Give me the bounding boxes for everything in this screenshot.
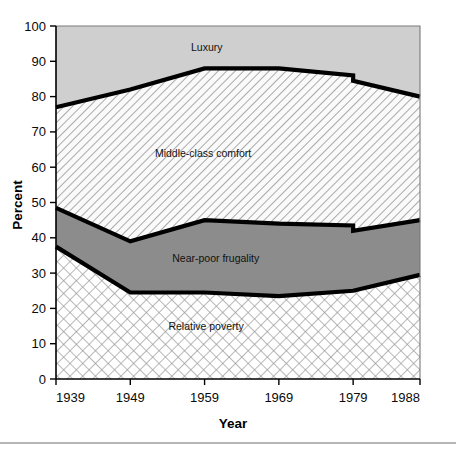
band-label-near-poor-frugality: Near-poor frugality bbox=[172, 252, 260, 264]
y-tick-label-40: 40 bbox=[32, 230, 46, 245]
x-tick-label-1949: 1949 bbox=[116, 390, 145, 405]
chart-container: 0102030405060708090100 19391949195919691… bbox=[0, 0, 456, 457]
x-tick-label-1939: 1939 bbox=[56, 390, 85, 405]
x-tick-label-1988: 1988 bbox=[391, 390, 420, 405]
x-axis-tick-labels: 193919491959196919791988 bbox=[56, 390, 420, 405]
y-tick-label-0: 0 bbox=[39, 372, 46, 387]
band-label-luxury: Luxury bbox=[191, 41, 223, 53]
x-tick-label-1959: 1959 bbox=[190, 390, 219, 405]
y-axis-ticks bbox=[50, 26, 56, 379]
y-tick-label-20: 20 bbox=[32, 301, 46, 316]
y-axis-tick-labels: 0102030405060708090100 bbox=[24, 19, 46, 387]
y-tick-label-90: 90 bbox=[32, 54, 46, 69]
band-label-middle-class-comfort: Middle-class comfort bbox=[155, 147, 251, 159]
y-tick-label-50: 50 bbox=[32, 195, 46, 210]
y-tick-label-10: 10 bbox=[32, 336, 46, 351]
x-tick-label-1969: 1969 bbox=[264, 390, 293, 405]
x-axis-ticks bbox=[56, 379, 420, 385]
y-tick-label-100: 100 bbox=[24, 19, 46, 34]
y-tick-label-30: 30 bbox=[32, 266, 46, 281]
stacked-area-chart: 0102030405060708090100 19391949195919691… bbox=[0, 0, 456, 457]
band-label-relative-poverty: Relative poverty bbox=[168, 320, 244, 332]
y-tick-label-60: 60 bbox=[32, 160, 46, 175]
x-axis-title: Year bbox=[219, 416, 248, 431]
y-axis-title: Percent bbox=[10, 180, 25, 230]
x-tick-label-1979: 1979 bbox=[339, 390, 368, 405]
y-tick-label-80: 80 bbox=[32, 89, 46, 104]
y-tick-label-70: 70 bbox=[32, 124, 46, 139]
